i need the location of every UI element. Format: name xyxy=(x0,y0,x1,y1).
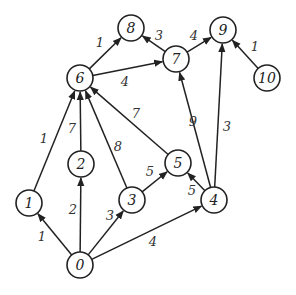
edge-weight-label: 1 xyxy=(96,35,104,50)
edge-weight-label: 3 xyxy=(155,28,163,43)
edge-weight-label: 1 xyxy=(251,39,259,54)
node-10: 10 xyxy=(254,65,280,91)
edge-weight-label: 3 xyxy=(223,119,231,134)
node-label: 2 xyxy=(76,156,86,172)
edge-weight-label: 1 xyxy=(40,131,48,146)
node-label: 10 xyxy=(258,70,276,86)
edge-weight-label: 4 xyxy=(148,234,157,249)
node-6: 6 xyxy=(67,65,93,91)
edge-2-to-6 xyxy=(80,92,81,151)
node-8: 8 xyxy=(118,15,144,41)
node-1: 1 xyxy=(16,190,42,216)
edge-weight-label: 5 xyxy=(146,164,154,179)
edge-weight-label: 5 xyxy=(188,183,196,198)
edge-0-to-2 xyxy=(80,178,81,252)
edge-weight-label: 4 xyxy=(189,28,198,43)
edge-weight-label: 1 xyxy=(38,229,46,244)
node-label: 3 xyxy=(128,192,137,208)
edge-4-to-9 xyxy=(215,44,223,187)
node-5: 5 xyxy=(165,150,191,176)
node-7: 7 xyxy=(163,46,189,72)
edges-layer xyxy=(34,36,258,259)
node-label: 6 xyxy=(76,70,85,86)
node-9: 9 xyxy=(210,17,236,43)
node-label: 4 xyxy=(209,192,219,208)
node-2: 2 xyxy=(68,151,94,177)
node-3: 3 xyxy=(119,187,145,213)
node-4: 4 xyxy=(201,187,227,213)
edge-weight-label: 7 xyxy=(68,121,77,136)
node-label: 7 xyxy=(172,51,181,67)
edge-weight-label: 4 xyxy=(120,74,129,89)
node-label: 8 xyxy=(127,20,136,36)
edge-weight-label: 2 xyxy=(68,202,77,217)
node-label: 1 xyxy=(25,195,34,211)
node-0: 0 xyxy=(67,252,93,278)
edge-weight-label: 7 xyxy=(132,106,141,121)
edge-6-to-8 xyxy=(89,38,121,69)
edge-weight-label: 3 xyxy=(106,208,114,223)
node-label: 5 xyxy=(174,155,183,171)
node-label: 9 xyxy=(219,22,228,38)
edge-5-to-6 xyxy=(91,87,169,154)
edge-weight-label: 9 xyxy=(189,114,197,129)
directed-graph: 12341785759314341 012345678910 xyxy=(0,0,296,295)
node-label: 0 xyxy=(76,257,85,273)
edge-weight-label: 8 xyxy=(114,139,122,154)
